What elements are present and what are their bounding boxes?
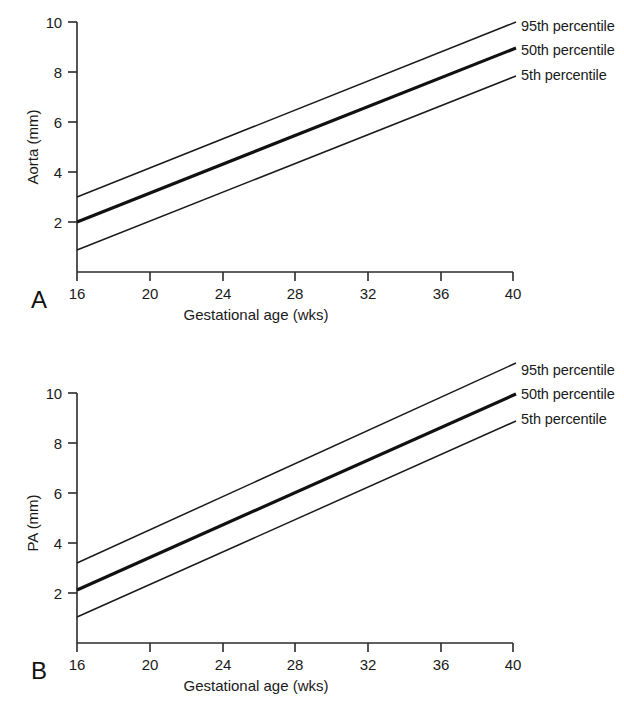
panel-a-y-ticks	[68, 22, 77, 222]
panel-a-xtick-label-28: 28	[287, 285, 303, 302]
panel-b-y-ticks	[68, 393, 77, 593]
panel-a-xtick-label-24: 24	[215, 285, 231, 302]
panel-b-xtick-label-24: 24	[215, 656, 231, 673]
panel-a-xtick-label-40: 40	[505, 285, 521, 302]
panel-b-xtick-label-36: 36	[433, 656, 449, 673]
panel-b-xtick-label-20: 20	[142, 656, 158, 673]
chart-panel-a: 10 8 6 4 2 16 20 24 28 32 36 40 Gestatio…	[0, 0, 624, 353]
panel-b-series-label-5th: 5th percentile	[521, 411, 607, 427]
panel-b-letter: B	[31, 657, 47, 685]
panel-a-xtick-label-16: 16	[69, 285, 85, 302]
panel-a-y-axis-title: Aorta (mm)	[24, 110, 41, 185]
panel-a-series-label-5th: 5th percentile	[521, 67, 607, 83]
panel-a-ytick-label-4: 4	[40, 164, 62, 181]
panel-a-ytick-label-2: 2	[40, 214, 62, 231]
panel-a-series-5th-line	[77, 76, 516, 250]
panel-a-ytick-label-10: 10	[40, 14, 62, 31]
panel-a-series-label-95th: 95th percentile	[521, 18, 615, 34]
panel-b-series-50th-line	[77, 394, 516, 590]
panel-b-series-label-50th: 50th percentile	[521, 386, 615, 402]
panel-b-ytick-label-10: 10	[40, 385, 62, 402]
panel-b-series-label-95th: 95th percentile	[521, 362, 615, 378]
panel-a-series-95th-line	[77, 22, 516, 197]
panel-a-x-axis-title: Gestational age (wks)	[183, 306, 328, 323]
chart-panel-b: 10 8 6 4 2 16 20 24 28 32 36 40 Gestatio…	[0, 353, 624, 706]
panel-b-xtick-label-28: 28	[287, 656, 303, 673]
panel-b-series-5th-line	[77, 421, 516, 617]
panel-a-ytick-label-6: 6	[40, 114, 62, 131]
panel-b-ytick-label-6: 6	[40, 485, 62, 502]
panel-b-ytick-label-4: 4	[40, 535, 62, 552]
panel-b-xtick-label-16: 16	[69, 656, 85, 673]
panel-b-ytick-label-8: 8	[40, 435, 62, 452]
panel-b-plot-area	[0, 353, 624, 706]
panel-b-series-95th-line	[77, 363, 516, 563]
panel-b-y-axis-title: PA (mm)	[24, 494, 41, 551]
panel-a-xtick-label-20: 20	[142, 285, 158, 302]
panel-a-x-ticks	[77, 272, 513, 281]
panel-a-series-50th-line	[77, 48, 516, 222]
panel-b-x-axis-title: Gestational age (wks)	[183, 677, 328, 694]
panel-b-xtick-label-40: 40	[505, 656, 521, 673]
figure-container: 10 8 6 4 2 16 20 24 28 32 36 40 Gestatio…	[0, 0, 624, 706]
panel-b-xtick-label-32: 32	[360, 656, 376, 673]
panel-b-x-ticks	[77, 643, 513, 652]
panel-a-xtick-label-32: 32	[360, 285, 376, 302]
panel-a-ytick-label-8: 8	[40, 64, 62, 81]
panel-a-letter: A	[31, 286, 47, 314]
panel-a-series-label-50th: 50th percentile	[521, 42, 615, 58]
panel-a-xtick-label-36: 36	[433, 285, 449, 302]
panel-b-ytick-label-2: 2	[40, 585, 62, 602]
